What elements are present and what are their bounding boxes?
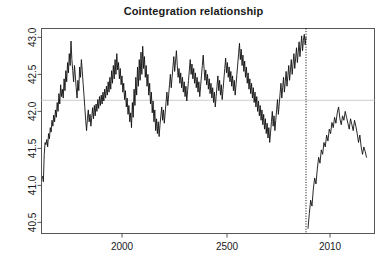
plot-frame: [42, 29, 375, 234]
x-axis-tick-label: 2000: [111, 241, 134, 252]
chart-container: Cointegration relationship 40.541.041.54…: [0, 0, 387, 267]
y-axis-tick-label: 40.5: [27, 212, 38, 232]
y-axis-tick-label: 42.5: [27, 64, 38, 84]
y-axis-tick-label: 41.5: [27, 138, 38, 158]
x-axis-tick-label: 2010: [319, 241, 342, 252]
x-axis-ticks: 200025002010: [111, 234, 342, 252]
x-axis-tick-label: 2500: [216, 241, 239, 252]
y-axis-ticks: 40.541.041.542.042.543.0: [27, 27, 42, 232]
data-series-group: [43, 34, 367, 228]
plot-border: [42, 29, 375, 234]
y-axis-tick-label: 41.0: [27, 175, 38, 195]
series-line-pre-break: [43, 34, 307, 181]
y-axis-tick-label: 43.0: [27, 27, 38, 47]
series-line-post-break: [308, 107, 367, 228]
y-axis-tick-label: 42.0: [27, 101, 38, 121]
cointegration-line-chart: 40.541.041.542.042.543.0 200025002010: [0, 0, 387, 267]
